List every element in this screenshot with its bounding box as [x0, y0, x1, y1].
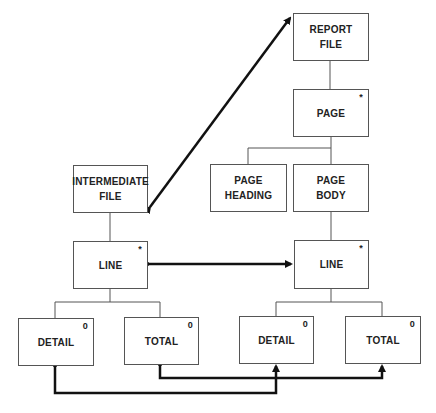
node-label: LINE — [320, 257, 344, 272]
node-line-left: * LINE — [73, 241, 148, 289]
node-label: INTERMEDIATE — [72, 174, 149, 189]
node-page-body: PAGE BODY — [293, 164, 369, 212]
node-detail-left: 0 DETAIL — [18, 318, 94, 366]
node-label: PAGE — [234, 173, 262, 188]
node-label: FILE — [320, 37, 342, 52]
node-label: DETAIL — [258, 333, 295, 348]
selection-marker: 0 — [303, 320, 308, 329]
node-total-left: 0 TOTAL — [124, 317, 199, 365]
selection-marker: 0 — [188, 321, 193, 330]
selection-marker: 0 — [410, 320, 415, 329]
node-label: PAGE — [317, 173, 345, 188]
iteration-marker: * — [138, 245, 142, 254]
node-label: DETAIL — [38, 335, 75, 350]
node-label: TOTAL — [366, 333, 399, 348]
node-report-file: REPORT FILE — [293, 13, 369, 61]
node-label: TOTAL — [145, 334, 178, 349]
node-page-heading: PAGE HEADING — [210, 164, 287, 212]
node-page: * PAGE — [293, 89, 369, 137]
node-label: BODY — [316, 188, 346, 203]
node-line-right: * LINE — [294, 240, 369, 289]
node-total-right: 0 TOTAL — [345, 316, 421, 364]
node-label: REPORT — [310, 22, 353, 37]
selection-marker: 0 — [83, 322, 88, 331]
node-label: LINE — [99, 258, 123, 273]
node-detail-right: 0 DETAIL — [239, 316, 314, 364]
node-label: FILE — [99, 189, 121, 204]
node-label: PAGE — [317, 106, 345, 121]
iteration-marker: * — [359, 93, 363, 102]
node-label: HEADING — [225, 188, 273, 203]
node-intermediate-file: INTERMEDIATE FILE — [73, 165, 148, 213]
iteration-marker: * — [359, 244, 363, 253]
